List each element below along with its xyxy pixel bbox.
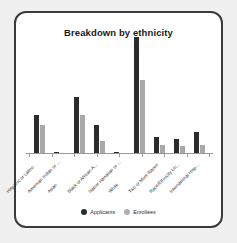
bar-applicants xyxy=(134,37,139,153)
axis-tick xyxy=(29,153,30,157)
legend-item-enrollees: Enrollees xyxy=(124,209,155,215)
bar-enrollees xyxy=(160,145,165,153)
bar-applicants xyxy=(94,125,99,153)
bar-group xyxy=(29,37,49,153)
bar-enrollees xyxy=(200,145,205,153)
bar-enrollees xyxy=(180,146,185,153)
chart-frame: Breakdown by ethnicity xyxy=(14,11,223,228)
bar-enrollees xyxy=(40,125,45,153)
legend-dot-icon xyxy=(81,209,87,215)
bar-group xyxy=(69,37,89,153)
axis-tick xyxy=(74,153,75,157)
axis-tick xyxy=(97,153,98,157)
bar-group xyxy=(150,37,170,153)
axis-tick xyxy=(142,153,143,157)
bar-groups xyxy=(28,37,211,153)
bar-applicants xyxy=(154,137,159,153)
bar-group xyxy=(130,37,150,153)
bar-applicants xyxy=(34,115,39,153)
x-axis-ticks xyxy=(28,153,211,157)
axis-tick xyxy=(164,153,165,157)
bar-enrollees xyxy=(80,115,85,153)
chart-legend: Applicants Enrollees xyxy=(16,209,221,215)
bar-applicants xyxy=(194,132,199,153)
legend-label: Applicants xyxy=(90,209,115,215)
axis-tick xyxy=(119,153,120,157)
x-axis-labels: Hispanic or Latino American Indian or ..… xyxy=(28,158,211,206)
axis-tick xyxy=(209,153,210,157)
bar-applicants xyxy=(74,97,79,153)
axis-tick xyxy=(187,153,188,157)
legend-label: Enrollees xyxy=(133,209,155,215)
bar-group xyxy=(49,37,69,153)
x-axis-label: Asian xyxy=(46,182,58,194)
bar-group xyxy=(190,37,210,153)
bar-group xyxy=(170,37,190,153)
axis-tick xyxy=(52,153,53,157)
bar-group xyxy=(109,37,129,153)
plot-area xyxy=(28,37,211,153)
bar-group xyxy=(89,37,109,153)
legend-item-applicants: Applicants xyxy=(81,209,115,215)
x-axis-label: White xyxy=(107,182,119,194)
legend-dot-icon xyxy=(124,209,130,215)
bar-enrollees xyxy=(100,141,105,153)
bar-applicants xyxy=(174,139,179,153)
bar-enrollees xyxy=(140,80,145,153)
